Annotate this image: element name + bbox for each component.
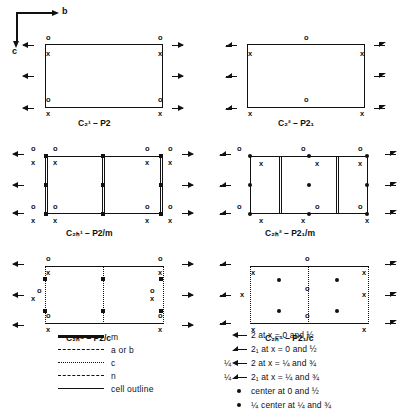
screw-axis-half-arrow-icon [219,182,231,188]
diagram-p2m: o x o x o x o x o x o x o x o x C₂ₕ¹ – P… [0,140,205,250]
site-label-x: x [158,50,162,58]
legend-sub-prefix: ¼ [251,400,258,410]
site-label-x: x [362,326,366,334]
diagram-p2: o x o x o x o x C₂¹ – P2 [0,28,205,138]
glide-plane-c-right [163,266,164,324]
screw-axis-half-arrow-icon [374,105,386,111]
site-label-x: x [31,217,35,225]
twofold-axis-marker [44,154,48,158]
inversion-center-marker [307,183,311,187]
diagram-caption: C₂¹ – P2 [78,118,111,128]
site-label-x: x [362,291,366,299]
legend-row: c [58,356,154,369]
inversion-center-dot-icon [232,387,248,395]
inversion-center-marker [277,278,281,282]
site-label-o: o [37,287,42,295]
screw-axis-half-arrow-icon [374,73,386,79]
b-axis-label: b [62,6,68,16]
screw-axis-half-arrow-icon [385,261,397,267]
twofold-axis-marker [159,277,163,281]
site-label-x: x [358,160,362,168]
twofold-axis-arrow-icon [182,151,194,157]
legend-row: cell outline [58,382,154,395]
twofold-axis-marker [159,183,163,187]
cell-edge-bottom [45,323,163,324]
twofold-axis-marker [159,154,163,158]
twofold-axis-arrow-icon [12,261,24,267]
site-label-o: o [31,145,36,153]
site-label-x: x [259,217,263,225]
legend-label: a or b [111,345,134,355]
twofold-axis-arrow-icon [232,331,248,339]
site-label-x: x [360,110,364,118]
screw-axis-half-arrow-icon [232,373,248,381]
line-style-swatch-m [58,335,104,338]
site-label-x: x [248,50,252,58]
twofold-axis-marker [44,183,48,187]
screw-axis-half-arrow-icon [385,292,397,298]
twofold-axis-marker [101,212,105,216]
site-label-x: x [365,217,369,225]
cell-edge-bottom [250,323,368,324]
inversion-center-marker [248,183,252,187]
legend-label: center at 0 and ½ [251,386,319,396]
twofold-axis-arrow-icon [22,42,34,48]
twofold-axis-arrow-icon [172,42,184,48]
site-label-o: o [358,203,363,211]
twofold-axis-arrow-icon [172,105,184,111]
site-label-x: x [315,160,319,168]
legend-label: 2₁ at x = ¼ and ¾ [251,372,319,382]
unit-cell-outline [45,266,163,324]
screw-axis-half-arrow-icon [225,105,237,111]
screw-axis-half-arrow-icon [385,210,397,216]
mirror-plane-left [279,156,282,214]
site-label-x: x [251,269,255,277]
inversion-center-marker [365,183,369,187]
inversion-center-marker [248,212,252,216]
legend-row: ¼ 2 at x = ¼ and ¾ [218,356,331,370]
inversion-center-marker [335,309,339,313]
legend-label: n [111,371,116,381]
site-label-x: x [362,269,366,277]
site-label-o: o [31,203,36,211]
twofold-axis-arrow-icon [12,210,24,216]
legend-label: 2 at x = ¼ and ¾ [251,358,316,368]
line-style-swatch-cell-outline [58,388,104,389]
cell-edge-top [250,266,368,267]
site-label-o: o [305,312,310,320]
twofold-axis-arrow-icon [22,73,34,79]
site-label-o: o [158,96,163,104]
legend-label: cell outline [111,384,154,394]
inversion-center-marker [307,212,311,216]
site-label-x: x [31,159,35,167]
site-label-x: x [145,217,149,225]
site-label-x: x [248,110,252,118]
inversion-center-marker [307,154,311,158]
twofold-axis-arrow-icon [182,322,194,328]
glide-plane-c-middle [103,266,104,324]
screw-axis-half-arrow-icon [385,182,397,188]
site-label-x: x [158,269,162,277]
site-label-x: x [53,217,57,225]
screw-axis-half-arrow-icon [385,151,397,157]
twofold-axis-arrow-icon [172,73,184,79]
site-label-x: x [259,160,263,168]
site-label-x: x [360,50,364,58]
twofold-axis-arrow-icon [12,151,24,157]
twofold-axis-arrow-icon [182,261,194,267]
legend-label: m [111,332,118,342]
legend-symmetry-symbols: 2 at x = 0 and ½ 2₁ at x = 0 and ½ ¼ 2 a… [218,328,331,412]
diagram-p21: x o x x o x C₂² – P2₁ [205,28,409,138]
b-axis-arrowhead-icon [52,10,59,16]
twofold-axis-marker [43,277,47,281]
legend-row: a or b [58,343,154,356]
site-label-x: x [240,291,244,299]
diagram-caption: C₂² – P2₁ [278,118,314,128]
site-label-o: o [158,312,163,320]
b-axis-line [16,12,54,14]
mirror-plane-right [336,156,339,214]
site-label-o: o [145,203,150,211]
site-label-o: o [358,145,363,153]
site-label-o: o [168,203,173,211]
glide-plane-c-right [368,266,369,324]
